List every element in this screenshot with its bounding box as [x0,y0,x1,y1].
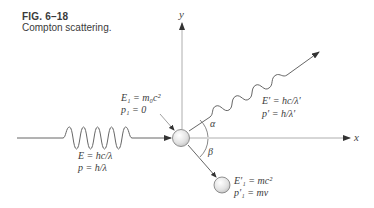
y-axis: y [178,8,184,129]
incident-photon-wave [17,127,171,149]
compton-scattering-figure: FIG. 6–18 Compton scattering. x y [0,0,374,208]
beta-label: β [207,146,213,157]
y-axis-label: y [178,8,184,20]
initial-electron-momentum: p₁ = 0 [120,104,146,115]
recoil-electron-ball [214,177,230,193]
initial-electron-pointer [160,114,174,130]
incident-photon-momentum: p = h/λ [77,162,108,173]
initial-electron-energy: E₁ = m₀c² [120,92,161,103]
scattered-photon-momentum: p′ = h/λ′ [261,108,296,119]
angle-beta-arc: β [200,139,213,157]
initial-electron-ball [173,130,190,147]
recoil-electron-momentum: p′₁ = mv [233,187,269,198]
recoil-electron-energy: E′₁ = mc² [233,175,273,186]
scattered-photon-energy: E′ = hc/λ′ [261,95,302,106]
angle-alpha-arc: α [200,118,216,137]
diagram-svg: x y α β E₁ = m [0,0,374,208]
x-axis: x [190,131,359,143]
scattered-photon-wave [189,52,319,131]
alpha-label: α [210,118,216,129]
incident-photon-energy: E = hc/λ [77,150,113,161]
x-axis-label: x [353,131,359,143]
